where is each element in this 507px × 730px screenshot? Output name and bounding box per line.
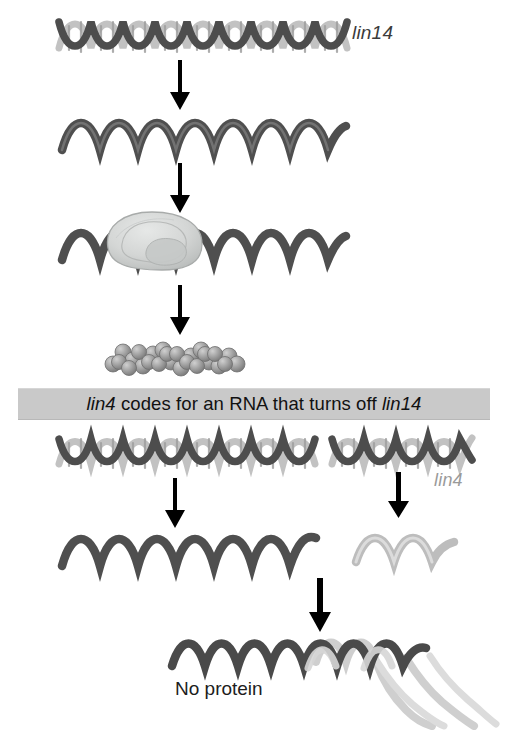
- ribosome-icon: [98, 208, 208, 276]
- lin14-gene-label: lin14: [352, 22, 393, 44]
- lin14-dna-helix-2: [55, 426, 325, 476]
- figure-canvas: lin14: [0, 0, 507, 730]
- banner-italic-lin14: lin14: [382, 393, 422, 414]
- lin14-mrna-strand-2: [58, 528, 328, 576]
- arrow-transcription-lin14-icon: [155, 478, 195, 530]
- banner-italic-lin4: lin4: [86, 393, 115, 414]
- no-protein-label: No protein: [175, 678, 263, 700]
- arrow-binding-icon: [300, 578, 340, 634]
- arrow-transcription-lin4-icon: [380, 472, 418, 520]
- lin14-protein-chain: [105, 330, 245, 382]
- lin4-dna-helix: [328, 426, 474, 476]
- lin14-dna-helix: [55, 8, 350, 60]
- banner-plain-text: codes for an RNA that turns off: [116, 393, 382, 414]
- lin14-mrna-strand: [58, 112, 350, 160]
- banner-text: lin4 codes for an RNA that turns off lin…: [86, 393, 421, 415]
- banner: lin4 codes for an RNA that turns off lin…: [18, 388, 490, 420]
- arrow-transcription-icon: [160, 60, 200, 112]
- lin4-gene-label: lin4: [434, 470, 463, 491]
- lin4-rna-strand: [350, 528, 460, 572]
